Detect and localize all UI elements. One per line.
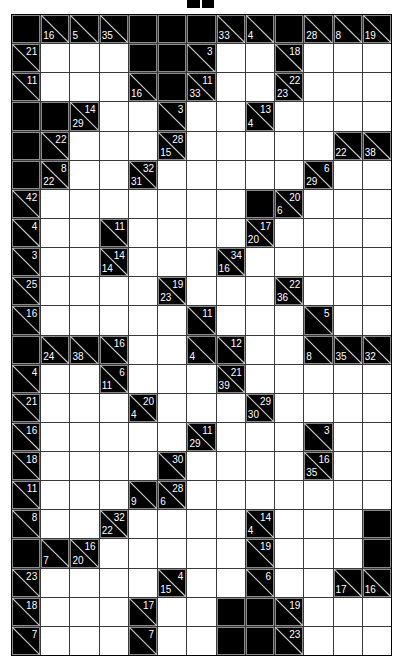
entry-cell[interactable] <box>100 598 128 626</box>
entry-cell[interactable] <box>100 539 128 567</box>
entry-cell[interactable] <box>246 306 274 334</box>
entry-cell[interactable] <box>100 306 128 334</box>
entry-cell[interactable] <box>41 248 69 276</box>
entry-cell[interactable] <box>304 510 332 538</box>
entry-cell[interactable] <box>129 423 157 451</box>
entry-cell[interactable] <box>41 481 69 509</box>
entry-cell[interactable] <box>100 394 128 422</box>
entry-cell[interactable] <box>187 277 215 305</box>
entry-cell[interactable] <box>275 102 303 130</box>
entry-cell[interactable] <box>129 190 157 218</box>
entry-cell[interactable] <box>187 539 215 567</box>
entry-cell[interactable] <box>246 44 274 72</box>
entry-cell[interactable] <box>158 190 186 218</box>
entry-cell[interactable] <box>334 306 362 334</box>
entry-cell[interactable] <box>70 510 98 538</box>
entry-cell[interactable] <box>363 219 391 247</box>
entry-cell[interactable] <box>158 306 186 334</box>
entry-cell[interactable] <box>275 219 303 247</box>
entry-cell[interactable] <box>363 365 391 393</box>
entry-cell[interactable] <box>275 161 303 189</box>
entry-cell[interactable] <box>100 44 128 72</box>
entry-cell[interactable] <box>275 306 303 334</box>
entry-cell[interactable] <box>41 423 69 451</box>
entry-cell[interactable] <box>275 248 303 276</box>
entry-cell[interactable] <box>41 277 69 305</box>
entry-cell[interactable] <box>246 365 274 393</box>
entry-cell[interactable] <box>187 510 215 538</box>
entry-cell[interactable] <box>304 539 332 567</box>
entry-cell[interactable] <box>246 132 274 160</box>
entry-cell[interactable] <box>100 102 128 130</box>
entry-cell[interactable] <box>304 598 332 626</box>
entry-cell[interactable] <box>363 627 391 655</box>
entry-cell[interactable] <box>363 277 391 305</box>
entry-cell[interactable] <box>217 73 245 101</box>
entry-cell[interactable] <box>41 73 69 101</box>
entry-cell[interactable] <box>334 73 362 101</box>
entry-cell[interactable] <box>187 627 215 655</box>
entry-cell[interactable] <box>129 539 157 567</box>
entry-cell[interactable] <box>70 161 98 189</box>
entry-cell[interactable] <box>187 481 215 509</box>
entry-cell[interactable] <box>217 277 245 305</box>
entry-cell[interactable] <box>217 394 245 422</box>
entry-cell[interactable] <box>100 73 128 101</box>
entry-cell[interactable] <box>217 481 245 509</box>
entry-cell[interactable] <box>100 569 128 597</box>
entry-cell[interactable] <box>158 423 186 451</box>
entry-cell[interactable] <box>41 394 69 422</box>
entry-cell[interactable] <box>100 190 128 218</box>
entry-cell[interactable] <box>334 161 362 189</box>
entry-cell[interactable] <box>334 365 362 393</box>
entry-cell[interactable] <box>246 452 274 480</box>
entry-cell[interactable] <box>275 569 303 597</box>
entry-cell[interactable] <box>246 481 274 509</box>
entry-cell[interactable] <box>334 539 362 567</box>
entry-cell[interactable] <box>187 598 215 626</box>
entry-cell[interactable] <box>363 598 391 626</box>
entry-cell[interactable] <box>129 569 157 597</box>
entry-cell[interactable] <box>41 598 69 626</box>
entry-cell[interactable] <box>129 510 157 538</box>
entry-cell[interactable] <box>334 452 362 480</box>
entry-cell[interactable] <box>363 394 391 422</box>
entry-cell[interactable] <box>100 481 128 509</box>
entry-cell[interactable] <box>129 219 157 247</box>
entry-cell[interactable] <box>70 423 98 451</box>
entry-cell[interactable] <box>275 452 303 480</box>
entry-cell[interactable] <box>187 394 215 422</box>
entry-cell[interactable] <box>275 336 303 364</box>
entry-cell[interactable] <box>363 102 391 130</box>
entry-cell[interactable] <box>363 190 391 218</box>
entry-cell[interactable] <box>70 73 98 101</box>
entry-cell[interactable] <box>246 423 274 451</box>
entry-cell[interactable] <box>363 306 391 334</box>
entry-cell[interactable] <box>334 627 362 655</box>
entry-cell[interactable] <box>304 627 332 655</box>
entry-cell[interactable] <box>304 102 332 130</box>
entry-cell[interactable] <box>304 132 332 160</box>
entry-cell[interactable] <box>70 394 98 422</box>
entry-cell[interactable] <box>187 132 215 160</box>
entry-cell[interactable] <box>41 190 69 218</box>
entry-cell[interactable] <box>304 44 332 72</box>
entry-cell[interactable] <box>217 452 245 480</box>
entry-cell[interactable] <box>217 219 245 247</box>
entry-cell[interactable] <box>334 44 362 72</box>
entry-cell[interactable] <box>41 306 69 334</box>
entry-cell[interactable] <box>363 73 391 101</box>
entry-cell[interactable] <box>100 277 128 305</box>
entry-cell[interactable] <box>246 277 274 305</box>
entry-cell[interactable] <box>275 394 303 422</box>
entry-cell[interactable] <box>187 102 215 130</box>
entry-cell[interactable] <box>217 423 245 451</box>
entry-cell[interactable] <box>275 132 303 160</box>
entry-cell[interactable] <box>304 190 332 218</box>
entry-cell[interactable] <box>70 219 98 247</box>
entry-cell[interactable] <box>129 452 157 480</box>
entry-cell[interactable] <box>187 161 215 189</box>
entry-cell[interactable] <box>70 627 98 655</box>
entry-cell[interactable] <box>217 161 245 189</box>
entry-cell[interactable] <box>187 190 215 218</box>
